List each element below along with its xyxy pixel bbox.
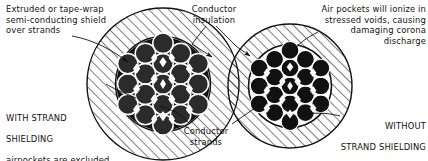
annotation-conductor-insulation: Conductor insulation bbox=[168, 4, 260, 25]
annotation-shield: Extruded or tape-wrap semi-conducting sh… bbox=[6, 4, 146, 36]
caption-with-line1: WITH STRAND bbox=[6, 113, 132, 124]
caption-with-line2: SHIELDING bbox=[6, 134, 132, 145]
annotation-air-pockets-corona: Air pockets will ionize in stressed void… bbox=[300, 4, 426, 46]
caption-with-body: airpockets are excluded from dielectric … bbox=[6, 155, 132, 161]
caption-without-line1: WITHOUT bbox=[310, 121, 426, 132]
annotation-conductor-strands: Conductor strands bbox=[158, 126, 254, 147]
caption-with-strand-shielding: WITH STRAND SHIELDING airpockets are exc… bbox=[6, 102, 132, 161]
cable-cross-section-figure: Extruded or tape-wrap semi-conducting sh… bbox=[0, 0, 428, 161]
caption-without-strand-shielding: WITHOUT STRAND SHIELDING air pockets can… bbox=[310, 110, 426, 161]
caption-without-line2: STRAND SHIELDING bbox=[310, 142, 426, 153]
